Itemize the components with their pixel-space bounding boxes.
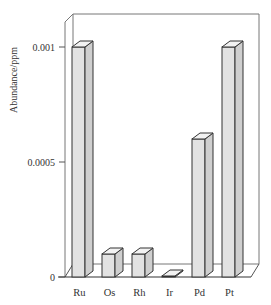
bar-pt [222, 41, 243, 277]
category-label: Rh [133, 287, 146, 298]
bar-pd [192, 133, 213, 277]
category-label: Ru [73, 287, 86, 298]
bar-os [102, 248, 123, 277]
x-axis-categories: RuOsRhIrPdPt [73, 287, 234, 298]
bars [72, 41, 243, 277]
left-wall-top-edge [65, 14, 73, 22]
bar-rh [132, 248, 153, 277]
bar-ru [72, 41, 93, 277]
category-label: Pt [225, 287, 234, 298]
y-tick-label: 0 [50, 272, 55, 283]
y-tick-label: 0.0005 [28, 157, 56, 168]
category-label: Os [104, 287, 116, 298]
category-label: Ir [166, 287, 173, 298]
category-label: Pd [194, 287, 206, 298]
abundance-bar-chart: 00.00050.001 Abundance/ppm RuOsRhIrPdPt [0, 0, 271, 305]
y-axis-ticks: 00.00050.001 [28, 42, 66, 283]
y-tick-label: 0.001 [33, 42, 56, 53]
floor-right-edge [251, 264, 259, 277]
bar-ir [162, 270, 183, 277]
y-axis-title: Abundance/ppm [8, 47, 19, 113]
